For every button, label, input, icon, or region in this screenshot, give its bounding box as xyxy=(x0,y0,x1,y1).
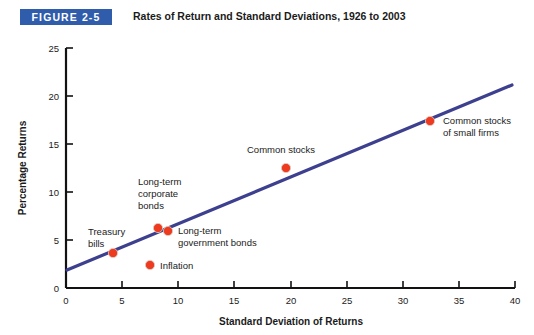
x-tick-label-5: 5 xyxy=(119,295,124,306)
data-point-long-term-government-bonds[interactable] xyxy=(163,226,172,235)
y-tick-label-10: 10 xyxy=(48,187,59,198)
label-lt-corporate-line3: bonds xyxy=(138,200,164,211)
y-tick-label-20: 20 xyxy=(48,91,59,102)
point-labels: Treasury bills Inflation Long-term corpo… xyxy=(88,115,511,271)
x-tick-label-20: 20 xyxy=(286,295,297,306)
data-point-treasury-bills[interactable] xyxy=(108,248,117,257)
label-lt-corporate-line1: Long-term xyxy=(138,176,181,187)
figure-number-badge: FIGURE 2-5 xyxy=(20,9,112,25)
label-common-stocks: Common stocks xyxy=(247,144,315,155)
x-axis-title: Standard Deviation of Returns xyxy=(219,316,363,327)
label-lt-government-line1: Long-term xyxy=(178,225,221,236)
data-point-common-stocks[interactable] xyxy=(281,163,290,172)
label-inflation: Inflation xyxy=(160,260,193,271)
y-tick-label-25: 25 xyxy=(48,43,59,54)
figure-header: FIGURE 2-5 Rates of Return and Standard … xyxy=(0,0,534,38)
y-tick-label-15: 15 xyxy=(48,139,59,150)
y-tick-label-5: 5 xyxy=(54,235,59,246)
x-tick-label-10: 10 xyxy=(173,295,184,306)
label-treasury-bills-line2: bills xyxy=(88,238,105,249)
label-small-firms-line2: of small firms xyxy=(443,127,499,138)
trend-line xyxy=(67,85,512,270)
x-tick-label-30: 30 xyxy=(398,295,409,306)
label-treasury-bills-line1: Treasury xyxy=(88,226,125,237)
data-point-long-term-corporate-bonds[interactable] xyxy=(153,223,162,232)
label-lt-corporate-line2: corporate xyxy=(138,188,178,199)
y-tick-label-0: 0 xyxy=(54,283,59,294)
x-tick-label-25: 25 xyxy=(342,295,353,306)
chart-area: 0 5 10 15 20 25 0 5 10 15 20 25 30 xyxy=(0,38,534,335)
x-tick-label-35: 35 xyxy=(454,295,465,306)
scatter-plot: 0 5 10 15 20 25 0 5 10 15 20 25 30 xyxy=(0,38,534,335)
y-axis-tick-labels: 0 5 10 15 20 25 xyxy=(48,43,59,294)
y-axis-title: Percentage Returns xyxy=(17,120,28,215)
x-tick-label-0: 0 xyxy=(63,295,68,306)
label-small-firms-line1: Common stocks xyxy=(443,115,511,126)
x-tick-label-40: 40 xyxy=(510,295,521,306)
x-axis-tick-labels: 0 5 10 15 20 25 30 35 40 xyxy=(63,295,520,306)
data-point-common-stocks-small-firms[interactable] xyxy=(425,116,434,125)
figure-caption: Rates of Return and Standard Deviations,… xyxy=(133,10,406,22)
x-tick-label-15: 15 xyxy=(229,295,240,306)
label-lt-government-line2: government bonds xyxy=(178,237,257,248)
data-point-inflation[interactable] xyxy=(145,260,154,269)
